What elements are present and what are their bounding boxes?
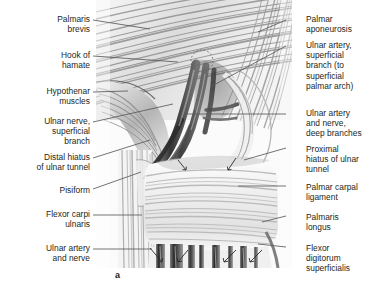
anatomy-label: Palmaris brevis [6, 14, 90, 34]
palmar-carpal-ligament [144, 156, 278, 251]
anatomy-label: Ulnar artery, superficial branch (to sup… [306, 40, 378, 91]
panel-letter: a [115, 270, 120, 280]
anatomy-label: Ulnar nerve, superficial branch [6, 116, 90, 147]
anatomy-label: Distal hiatus of ulnar tunnel [6, 152, 90, 172]
anatomy-label: Hook of hamate [6, 50, 90, 70]
anatomy-label: Pisiform [6, 185, 90, 195]
anatomy-label: Palmar carpal ligament [306, 182, 378, 202]
anatomy-label: Ulnar artery and nerve, deep branches [306, 108, 378, 139]
anatomy-label: Ulnar artery and nerve [6, 243, 90, 263]
anatomy-label: Flexor carpi ulnaris [6, 209, 90, 229]
anatomy-label: Palmar aponeurosis [306, 14, 378, 34]
anatomy-label: Proximal hiatus of ulnar tunnel [306, 144, 378, 175]
anatomy-label: Hypothenar muscles [6, 86, 90, 106]
anatomy-label: Flexor digitorum superficialis [306, 243, 378, 274]
anatomy-label: Palmaris longus [306, 212, 378, 232]
dissection-field [96, 0, 300, 270]
